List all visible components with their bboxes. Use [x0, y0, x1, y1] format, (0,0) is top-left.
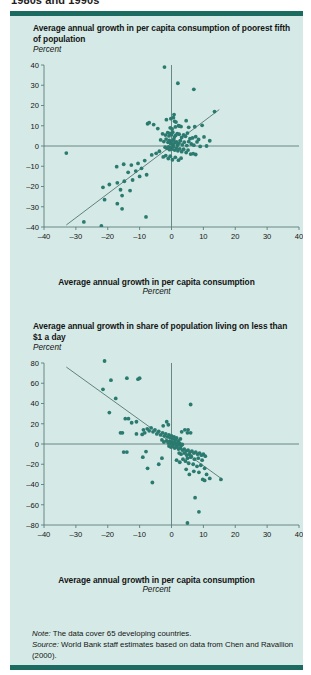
source-line: Source: World Bank staff estimates based… — [32, 639, 300, 661]
svg-text:0: 0 — [35, 142, 39, 151]
svg-text:–80: –80 — [26, 521, 39, 530]
svg-text:–10: –10 — [133, 232, 146, 241]
svg-text:0: 0 — [169, 232, 173, 241]
chart-y-unit: Percent — [33, 343, 61, 352]
svg-text:–40: –40 — [26, 223, 39, 232]
svg-text:40: 40 — [295, 530, 303, 539]
scatter-plot-2: –80–60–40–20020406080–40–30–20–100102030… — [10, 355, 303, 555]
svg-text:–30: –30 — [70, 232, 83, 241]
svg-text:–10: –10 — [26, 162, 39, 171]
svg-text:30: 30 — [263, 530, 271, 539]
svg-text:–40: –40 — [26, 480, 39, 489]
svg-text:30: 30 — [31, 81, 39, 90]
svg-text:10: 10 — [199, 232, 207, 241]
figure-notes: Note: The data cover 65 developing count… — [32, 628, 300, 661]
svg-text:20: 20 — [31, 420, 39, 429]
svg-text:80: 80 — [31, 359, 39, 368]
chart-x-axis-label: Average annual growth in per capita cons… — [10, 575, 303, 585]
svg-text:10: 10 — [31, 122, 39, 131]
svg-text:40: 40 — [31, 399, 39, 408]
top-rule — [10, 11, 303, 16]
chart-x-axis-label: Average annual growth in per capita cons… — [10, 277, 303, 287]
bottom-rule — [10, 665, 303, 670]
chart-y-unit: Percent — [33, 45, 61, 54]
chart-poorest-fifth-consumption: Average annual growth in per capita cons… — [10, 23, 303, 323]
svg-text:0: 0 — [35, 440, 39, 449]
svg-text:–40: –40 — [38, 530, 51, 539]
svg-text:–20: –20 — [26, 460, 39, 469]
svg-text:20: 20 — [31, 101, 39, 110]
svg-text:40: 40 — [31, 61, 39, 70]
svg-text:20: 20 — [231, 530, 239, 539]
source-text: World Bank staff estimates based on data… — [32, 640, 293, 660]
source-label: Source: — [32, 640, 59, 649]
svg-text:–30: –30 — [26, 203, 39, 212]
svg-text:20: 20 — [231, 232, 239, 241]
chart-title: Average annual growth in share of popula… — [33, 321, 295, 342]
svg-text:60: 60 — [31, 379, 39, 388]
svg-text:40: 40 — [295, 232, 303, 241]
svg-text:–20: –20 — [26, 182, 39, 191]
svg-text:–60: –60 — [26, 501, 39, 510]
svg-text:–20: –20 — [101, 530, 114, 539]
note-label: Note: — [32, 629, 51, 638]
chart-x-axis-unit: Percent — [10, 585, 303, 594]
note-text: The data cover 65 developing countries. — [51, 629, 192, 638]
svg-text:–40: –40 — [38, 232, 51, 241]
svg-text:0: 0 — [169, 530, 173, 539]
chart-poverty-share-under-1-dollar: Average annual growth in share of popula… — [10, 321, 303, 611]
scatter-plot-1: –40–30–20–10010203040–40–30–20–100102030… — [10, 57, 303, 257]
figure-panel: Average annual growth in per capita cons… — [10, 11, 303, 670]
figure-page: 1980s and 1990s Average annual growth in… — [0, 0, 311, 675]
note-line: Note: The data cover 65 developing count… — [32, 628, 300, 639]
cut-off-caption: 1980s and 1990s — [11, 0, 251, 6]
chart-title: Average annual growth in per capita cons… — [33, 23, 295, 44]
svg-text:10: 10 — [199, 530, 207, 539]
svg-text:30: 30 — [263, 232, 271, 241]
svg-text:–20: –20 — [101, 232, 114, 241]
chart-x-axis-unit: Percent — [10, 287, 303, 296]
svg-text:–10: –10 — [133, 530, 146, 539]
svg-text:–30: –30 — [70, 530, 83, 539]
